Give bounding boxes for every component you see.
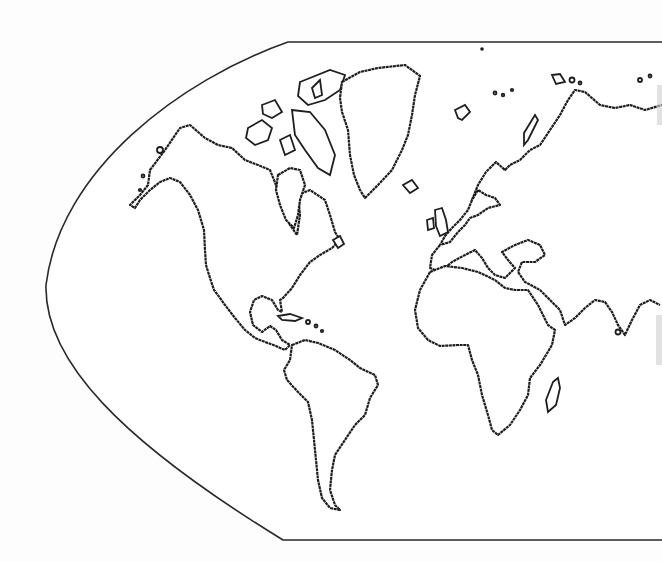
ireland-outline bbox=[427, 218, 434, 230]
sri-lanka-outline bbox=[616, 330, 621, 335]
franz-josef-island bbox=[494, 92, 497, 95]
arctic-island bbox=[579, 82, 582, 85]
caribbean-island bbox=[306, 320, 310, 324]
arctic-island bbox=[638, 78, 642, 82]
aleutian-island bbox=[139, 189, 141, 191]
arctic-island bbox=[649, 75, 652, 78]
arctic-dot bbox=[480, 47, 484, 51]
arctic-island bbox=[570, 78, 575, 83]
scan-edge-shadow bbox=[657, 85, 662, 125]
alaska-island bbox=[157, 147, 163, 153]
caribbean-island bbox=[321, 330, 323, 332]
franz-josef-island bbox=[511, 89, 513, 91]
scan-edge-shadow bbox=[656, 315, 662, 365]
world-outline-map bbox=[0, 0, 662, 561]
franz-josef-island bbox=[502, 94, 505, 97]
aleutian-island bbox=[142, 175, 145, 178]
caribbean-island bbox=[315, 325, 318, 328]
